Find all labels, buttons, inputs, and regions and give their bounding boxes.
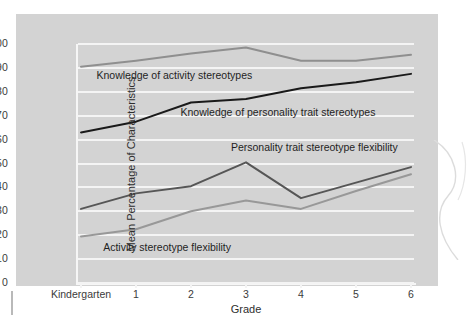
y-tick-label: 60 [0, 133, 8, 145]
series-annotation-label: Knowledge of personality trait stereotyp… [180, 106, 375, 118]
x-tick-label: 1 [133, 288, 139, 300]
x-tick-label: 4 [298, 288, 304, 300]
page-edge-mark [11, 291, 13, 315]
x-axis-title: Grade [231, 303, 262, 315]
figure-container: 1009080706050403020100 Kindergarten12345… [0, 0, 470, 315]
x-tick-label: 6 [408, 288, 414, 300]
y-tick-label: 30 [0, 204, 8, 216]
y-tick-label: 50 [0, 157, 8, 169]
plot-area: 1009080706050403020100 Kindergarten12345… [78, 44, 414, 283]
y-axis-title: Mean Percentage of Characteristics [125, 76, 137, 251]
x-tick-label: 5 [353, 288, 359, 300]
y-tick-label: 40 [0, 180, 8, 192]
y-tick-label: 20 [0, 228, 8, 240]
y-tick-label: 10 [0, 252, 8, 264]
y-tick-label: 70 [0, 109, 8, 121]
series-line [81, 48, 411, 67]
series-annotation-label: Personality trait stereotype flexibility [231, 141, 398, 153]
y-tick-label: 80 [0, 85, 8, 97]
x-tick-label: Kindergarten [51, 288, 111, 300]
y-tick-label: 0 [0, 276, 8, 288]
x-tick-label: 2 [188, 288, 194, 300]
y-tick-label: 100 [0, 37, 8, 49]
series-annotation-label: Knowledge of activity stereotypes [96, 69, 252, 81]
y-tick-label: 90 [0, 61, 8, 73]
x-tick-label: 3 [243, 288, 249, 300]
series-annotation-label: Activity stereotype flexibility [103, 241, 231, 253]
chart-plot-card: 1009080706050403020100 Kindergarten12345… [16, 14, 438, 286]
